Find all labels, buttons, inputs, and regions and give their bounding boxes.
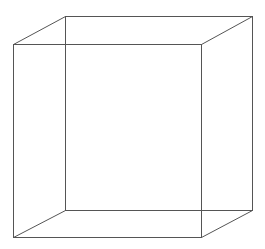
cube-back-face xyxy=(66,17,253,211)
cube-front-face xyxy=(14,45,202,238)
cube-edge-top-left xyxy=(14,17,66,45)
cube-edge-bottom-right xyxy=(202,211,253,238)
wireframe-cube xyxy=(0,0,265,249)
cube-edge-top-right xyxy=(202,17,253,45)
cube-edge-bottom-left xyxy=(14,211,66,238)
